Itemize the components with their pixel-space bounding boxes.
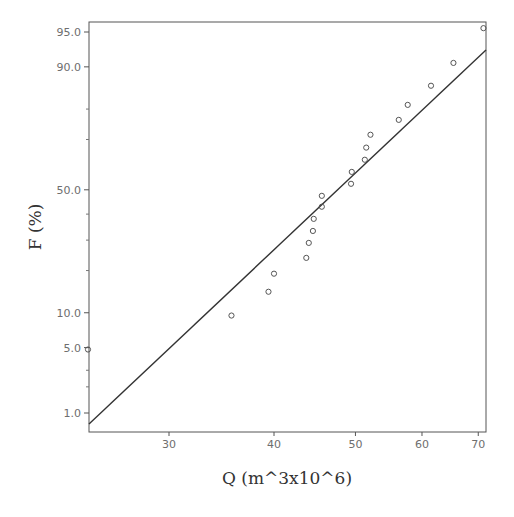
data-point	[311, 216, 316, 221]
fitted-line	[89, 50, 486, 424]
y-axis: 1.05.010.050.090.095.0	[57, 26, 90, 420]
data-point	[349, 169, 354, 174]
data-point	[271, 271, 276, 276]
x-tick-label: 40	[267, 438, 281, 451]
data-point	[310, 228, 315, 233]
fit-line	[89, 50, 486, 424]
x-tick-label: 70	[471, 438, 485, 451]
x-tick-label: 60	[415, 438, 429, 451]
y-tick-label: 1.0	[64, 407, 82, 420]
y-tick-label: 50.0	[57, 184, 82, 197]
data-point	[428, 83, 433, 88]
plot-frame	[89, 22, 486, 432]
data-points	[85, 26, 486, 353]
x-axis-title: Q (m^3x10^6)	[222, 468, 352, 488]
y-tick-label: 90.0	[57, 61, 82, 74]
y-tick-label: 10.0	[57, 307, 82, 320]
plot-area: 1.05.010.050.090.095.0 3040506070	[57, 22, 487, 451]
x-tick-label: 30	[162, 438, 176, 451]
data-point	[396, 117, 401, 122]
data-point	[481, 26, 486, 31]
data-point	[348, 181, 353, 186]
data-point	[319, 193, 324, 198]
y-tick-label: 95.0	[57, 26, 82, 39]
data-point	[306, 240, 311, 245]
y-tick-label: 5.0	[64, 342, 82, 355]
data-point	[362, 157, 367, 162]
data-point	[364, 145, 369, 150]
probability-plot: 1.05.010.050.090.095.0 3040506070 F (%) …	[0, 0, 514, 517]
data-point	[405, 102, 410, 107]
data-point	[304, 255, 309, 260]
data-point	[229, 313, 234, 318]
y-axis-title: F (%)	[25, 204, 45, 251]
data-point	[368, 132, 373, 137]
data-point	[266, 289, 271, 294]
data-point	[451, 60, 456, 65]
x-tick-label: 50	[348, 438, 362, 451]
x-axis: 3040506070	[162, 432, 485, 451]
